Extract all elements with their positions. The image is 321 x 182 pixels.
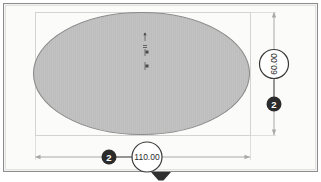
horizontal-dimension-badge-label: 2 bbox=[106, 152, 111, 163]
drag-handle-triangle-icon[interactable] bbox=[151, 172, 171, 181]
horizontal-dimension-value: 110.00 bbox=[134, 152, 160, 162]
ellipse-shape[interactable] bbox=[34, 13, 250, 135]
vertical-dimension-value: 60.00 bbox=[269, 53, 279, 75]
cad-drawing-canvas: 60.00 2 110.00 2 bbox=[0, 0, 321, 182]
drawing-surface: 60.00 2 110.00 2 bbox=[0, 0, 321, 182]
vertical-dimension-badge-label: 2 bbox=[271, 99, 276, 110]
